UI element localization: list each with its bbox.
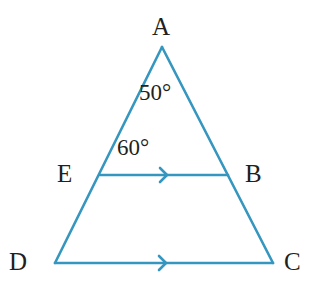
vertex-label-b: B [245, 161, 262, 186]
vertex-label-d: D [9, 249, 27, 274]
vertex-label-c: C [284, 249, 301, 274]
triangle-figure-svg [0, 0, 312, 297]
vertex-label-e: E [57, 161, 72, 186]
vertex-label-a: A [152, 14, 170, 39]
angle-label-at-a: 50° [139, 81, 171, 104]
segment-AC [162, 47, 273, 263]
angle-label-at-e: 60° [117, 136, 149, 159]
geometry-diagram: A B C D E 50° 60° [0, 0, 312, 297]
